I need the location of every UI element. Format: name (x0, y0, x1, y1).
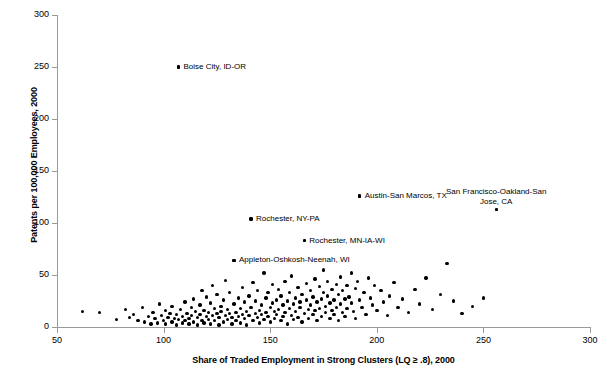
y-tick-label: 200 (0, 114, 49, 123)
data-point (211, 284, 214, 287)
data-point (307, 308, 310, 311)
data-point (445, 262, 448, 265)
data-point (350, 271, 353, 274)
data-point (290, 314, 293, 317)
data-point (258, 309, 261, 312)
data-point (388, 294, 391, 297)
y-tick-mark (52, 119, 57, 120)
data-point (343, 297, 346, 300)
data-point (185, 312, 188, 315)
data-point (294, 310, 297, 313)
data-point (313, 277, 316, 280)
data-point (345, 307, 348, 310)
y-axis-line (57, 15, 58, 328)
data-point (326, 280, 329, 283)
data-point (243, 317, 246, 320)
data-point (132, 313, 135, 316)
data-point (300, 293, 303, 296)
x-tick-mark (270, 328, 271, 333)
data-point (309, 303, 312, 306)
point-annotation-label: San Francisco-Oakland-San Jose, CA (436, 187, 556, 206)
data-point (345, 284, 348, 287)
data-point (264, 296, 267, 299)
data-point (350, 301, 353, 304)
data-point (311, 295, 314, 298)
data-point (330, 309, 333, 312)
x-tick-label: 200 (357, 336, 397, 345)
data-point (311, 313, 314, 316)
data-point (143, 320, 146, 323)
data-point (164, 322, 167, 325)
data-point (222, 298, 225, 301)
data-point (198, 303, 201, 306)
data-point (418, 302, 421, 305)
data-point (305, 298, 308, 301)
data-point (177, 318, 180, 321)
data-point (367, 276, 370, 279)
data-point (307, 317, 310, 320)
point-annotation-label: Rochester, MN-IA-WI (309, 236, 385, 246)
data-point (330, 288, 333, 291)
data-point (358, 298, 361, 301)
data-point (181, 315, 184, 318)
data-point (192, 320, 195, 323)
data-point (219, 310, 222, 313)
data-point (320, 297, 323, 300)
data-point (281, 303, 284, 306)
data-point (192, 297, 195, 300)
data-point (471, 305, 474, 308)
data-point (245, 310, 248, 313)
data-point (164, 309, 167, 312)
data-point (339, 302, 342, 305)
data-point (369, 296, 372, 299)
data-point (352, 310, 355, 313)
data-point (324, 311, 327, 314)
data-point (228, 312, 231, 315)
annotated-data-point (495, 208, 498, 211)
data-point (239, 321, 242, 324)
data-point (286, 322, 289, 325)
x-tick-label: 250 (463, 336, 503, 345)
data-point (228, 291, 231, 294)
data-point (264, 311, 267, 314)
x-tick-mark (57, 328, 58, 333)
data-point (326, 294, 329, 297)
data-point (256, 289, 259, 292)
data-point (239, 307, 242, 310)
data-point (439, 293, 442, 296)
y-tick-mark (52, 171, 57, 172)
data-point (347, 295, 350, 298)
data-point (124, 308, 127, 311)
data-point (224, 279, 227, 282)
data-point (190, 314, 193, 317)
data-point (379, 289, 382, 292)
data-point (315, 319, 318, 322)
data-point (115, 318, 118, 321)
data-point (277, 288, 280, 291)
annotated-data-point (232, 259, 235, 262)
data-point (328, 301, 331, 304)
x-tick-mark (590, 328, 591, 333)
data-point (396, 306, 399, 309)
data-point (360, 306, 363, 309)
data-point (315, 300, 318, 303)
data-point (292, 302, 295, 305)
y-tick-mark (52, 223, 57, 224)
scatter-chart: Patents per 100,000 Employees, 2000 Shar… (0, 0, 609, 378)
data-point (243, 300, 246, 303)
data-point (151, 311, 154, 314)
data-point (219, 305, 222, 308)
data-point (407, 311, 410, 314)
point-annotation-label: Boise City, ID-OR (184, 62, 247, 72)
data-point (187, 322, 190, 325)
data-point (215, 312, 218, 315)
data-point (190, 306, 193, 309)
data-point (262, 271, 265, 274)
data-point (288, 291, 291, 294)
data-point (226, 318, 229, 321)
data-point (183, 319, 186, 322)
annotated-data-point (177, 65, 180, 68)
x-tick-label: 50 (37, 336, 77, 345)
data-point (128, 316, 131, 319)
data-point (251, 281, 254, 284)
